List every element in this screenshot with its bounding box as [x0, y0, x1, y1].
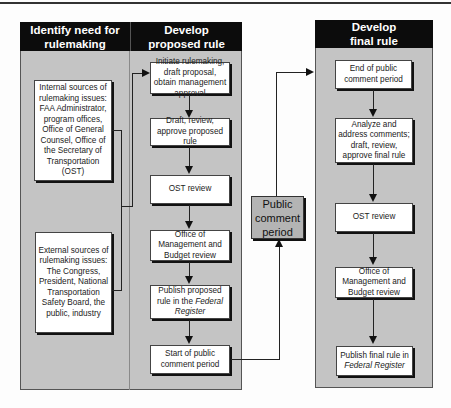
step-end-public-comment: End of public comment period — [335, 60, 412, 89]
connector-start-to-pcp-h — [231, 359, 280, 360]
connector-to-initiate — [132, 73, 142, 74]
header-develop-proposed: Develop proposed rule — [130, 22, 242, 51]
step-publish-proposed-rule: Publish proposed rule in the Federal Reg… — [150, 285, 230, 319]
connector-start-to-pcp-v — [279, 246, 280, 360]
flow-line — [189, 95, 190, 111]
flow-line — [373, 90, 374, 110]
arrow-down-icon — [369, 109, 377, 117]
flow-line — [189, 205, 190, 222]
flow-line — [373, 299, 374, 337]
arrow-down-icon — [369, 257, 377, 265]
federal-register-italic: Federal Register — [344, 361, 405, 370]
connector-up-vertical — [132, 73, 133, 207]
flow-line — [373, 233, 374, 258]
arrow-down-icon — [185, 166, 193, 174]
step-omb-review-proposed: Office of Management and Budget review — [150, 230, 230, 261]
flow-line — [189, 320, 190, 337]
connector-external-stub — [112, 290, 122, 291]
arrow-up-icon — [275, 239, 283, 247]
step-omb-review-final: Office of Management and Budget review — [335, 267, 413, 298]
connector-pcp-to-final — [276, 72, 307, 73]
external-sources-box: External sources of rulemaking issues: T… — [35, 232, 112, 333]
flow-line — [373, 164, 374, 195]
connector-internal-vertical — [121, 130, 122, 291]
step-ost-review-final: OST review — [335, 203, 413, 232]
step-publish-final-rule: Publish final rule in Federal Register — [336, 346, 413, 376]
flow-line — [189, 147, 190, 167]
connector-pcp-up — [276, 72, 277, 196]
step-analyze-comments: Analyze and address comments; draft, rev… — [335, 118, 413, 163]
arrow-down-icon — [185, 336, 193, 344]
arrow-to-final-icon — [306, 68, 314, 76]
arrow-down-icon — [185, 276, 193, 284]
top-rule — [0, 2, 451, 4]
internal-sources-text: Internal sources of rulemaking issues: F… — [37, 83, 109, 178]
arrow-down-icon — [369, 194, 377, 202]
flow-line — [189, 262, 190, 277]
arrow-down-icon — [369, 336, 377, 344]
step-draft-proposed-rule: Draft, review, approve proposed rule — [150, 118, 230, 146]
arrow-down-icon — [185, 221, 193, 229]
step-initiate-rulemaking: Initiate rulemaking, draft proposal, obt… — [150, 62, 230, 94]
arrow-to-initiate-icon — [142, 69, 150, 77]
internal-sources-box: Internal sources of rulemaking issues: F… — [34, 80, 112, 181]
public-comment-period-box: Public comment period — [251, 196, 304, 239]
header-develop-final: Develop final rule — [315, 20, 433, 48]
external-sources-text: External sources of rulemaking issues: T… — [38, 246, 109, 320]
header-identify-need: Identify need for rulemaking — [20, 22, 130, 51]
step-ost-review-proposed: OST review — [150, 175, 230, 204]
step-start-public-comment: Start of public comment period — [150, 345, 230, 374]
column-divider — [129, 51, 130, 390]
